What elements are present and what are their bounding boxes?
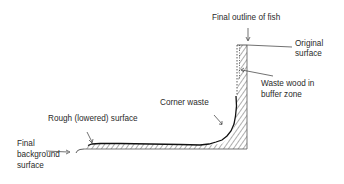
label-final-background-line3: surface	[17, 161, 44, 171]
block-boundary	[84, 45, 247, 149]
label-waste-wood-line2: buffer zone	[261, 90, 302, 100]
label-corner-waste: Corner waste	[160, 98, 209, 108]
label-rough-surface: Rough (lowered) surface	[48, 114, 138, 124]
label-original-surface-line1: Original	[295, 39, 323, 49]
label-final-background-line1: Final	[17, 139, 35, 149]
label-final-outline: Final outline of fish	[212, 13, 280, 23]
original-surface-leader	[247, 45, 292, 47]
hatched-wood-region	[84, 45, 247, 149]
label-final-background-line2: background	[17, 150, 60, 160]
label-original-surface-line2: surface	[295, 49, 322, 59]
corner-waste-leader	[214, 115, 222, 124]
label-waste-wood-line1: Waste wood in	[261, 79, 314, 89]
final-background-surface-line	[76, 149, 84, 153]
